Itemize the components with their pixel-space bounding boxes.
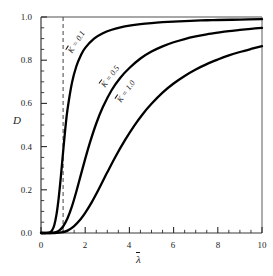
ytick-label-0: 0.0: [8, 228, 32, 238]
ytick-label-5: 1.0: [8, 12, 32, 22]
xtick-label-5: 10: [252, 240, 272, 250]
chart-figure: 0.0 0.2 0.4 0.6 0.8 1.0 0 2 4 6 8 10 D λ…: [0, 0, 273, 276]
xtick-label-2: 4: [119, 240, 139, 250]
x-axis-title: λ: [136, 253, 141, 265]
y-axis-title: D: [13, 114, 21, 126]
ytick-label-1: 0.2: [8, 185, 32, 195]
x-axis-title-symbol: λ: [136, 253, 141, 265]
curve-series-1: [41, 28, 262, 233]
plot-canvas: [0, 0, 273, 276]
xtick-label-4: 8: [208, 240, 228, 250]
xtick-label-3: 6: [163, 240, 183, 250]
xtick-label-1: 2: [75, 240, 95, 250]
ytick-label-2: 0.4: [8, 142, 32, 152]
xtick-label-0: 0: [31, 240, 51, 250]
ytick-label-3: 0.6: [8, 98, 32, 108]
ytick-label-4: 0.8: [8, 55, 32, 65]
